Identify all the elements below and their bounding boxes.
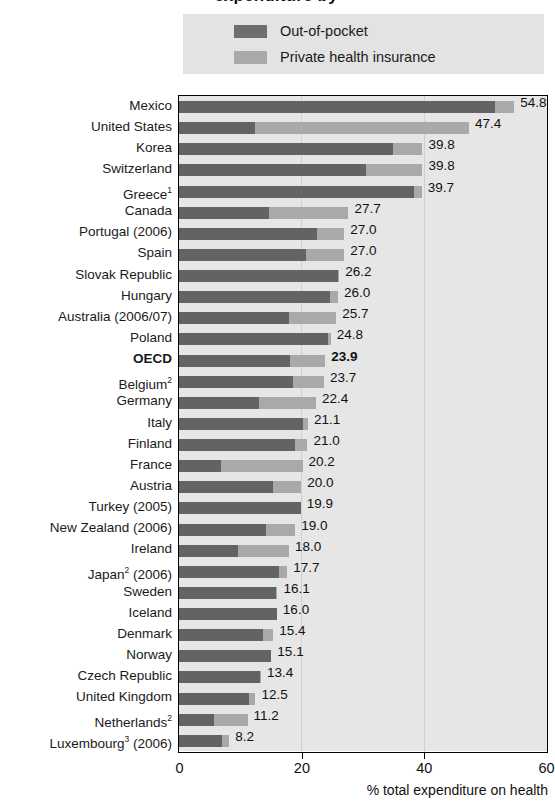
bar-row[interactable]: 19.0 (179, 519, 547, 540)
bar-row[interactable]: 13.4 (179, 666, 547, 687)
bar-segment-out-of-pocket (179, 481, 273, 493)
stacked-bar[interactable] (179, 671, 261, 683)
bar-row[interactable]: 11.2 (179, 709, 547, 730)
bar-value-label: 8.2 (235, 729, 254, 744)
bar-row[interactable]: 16.1 (179, 582, 547, 603)
bar-segment-private-health-insurance (221, 460, 303, 472)
bar-segment-out-of-pocket (179, 502, 301, 514)
bar-value-label: 27.0 (350, 222, 376, 237)
bar-value-label: 13.4 (267, 665, 293, 680)
bar-segment-private-health-insurance (263, 629, 273, 641)
stacked-bar[interactable] (179, 460, 303, 472)
bar-segment-private-health-insurance (366, 164, 423, 176)
bar-row[interactable]: 19.9 (179, 497, 547, 518)
bar-row[interactable]: 39.7 (179, 181, 547, 202)
bar-row[interactable]: 20.0 (179, 476, 547, 497)
bar-segment-private-health-insurance (255, 122, 468, 134)
bar-row[interactable]: 21.0 (179, 434, 547, 455)
stacked-bar[interactable] (179, 566, 287, 578)
stacked-bar[interactable] (179, 714, 248, 726)
bar-row[interactable]: 39.8 (179, 138, 547, 159)
bar-segment-private-health-insurance (249, 693, 256, 705)
bar-segment-private-health-insurance (303, 418, 308, 430)
bar-row[interactable]: 26.2 (179, 265, 547, 286)
bar-row[interactable]: 27.0 (179, 223, 547, 244)
stacked-bar[interactable] (179, 249, 344, 261)
category-label: Australia (2006/07) (0, 311, 172, 323)
stacked-bar[interactable] (179, 481, 301, 493)
stacked-bar[interactable] (179, 502, 301, 514)
category-label: Sweden (0, 586, 172, 598)
bar-row[interactable]: 12.5 (179, 688, 547, 709)
stacked-bar[interactable] (179, 143, 422, 155)
bar-row[interactable]: 27.0 (179, 244, 547, 265)
bar-row[interactable]: 25.7 (179, 307, 547, 328)
legend-swatch-icon (234, 51, 267, 64)
x-axis-title: % total expenditure on health (367, 782, 548, 798)
stacked-bar[interactable] (179, 439, 307, 451)
bar-row[interactable]: 21.1 (179, 413, 547, 434)
bar-row[interactable]: 27.7 (179, 202, 547, 223)
bar-value-label: 27.0 (350, 243, 376, 258)
stacked-bar[interactable] (179, 291, 338, 303)
bar-row[interactable]: 17.7 (179, 561, 547, 582)
bar-value-label: 11.2 (254, 708, 279, 723)
stacked-bar[interactable] (179, 122, 469, 134)
stacked-bar[interactable] (179, 333, 331, 345)
bar-value-label: 12.5 (261, 687, 287, 702)
bar-segment-private-health-insurance (293, 376, 324, 388)
category-label: Iceland (0, 607, 172, 619)
bar-row[interactable]: 47.4 (179, 117, 547, 138)
stacked-bar[interactable] (179, 397, 316, 409)
category-label: Hungary (0, 290, 172, 302)
stacked-bar[interactable] (179, 207, 348, 219)
bar-segment-out-of-pocket (179, 566, 279, 578)
bar-row[interactable]: 23.7 (179, 371, 547, 392)
legend-label: Out-of-pocket (280, 23, 368, 39)
bar-value-label: 47.4 (475, 116, 501, 131)
stacked-bar[interactable] (179, 312, 336, 324)
bar-row[interactable]: 18.0 (179, 540, 547, 561)
stacked-bar[interactable] (179, 650, 271, 662)
bar-row[interactable]: 54.8 (179, 96, 547, 117)
bar-segment-private-health-insurance (317, 228, 345, 240)
category-label: Poland (0, 332, 172, 344)
bar-row[interactable]: 16.0 (179, 603, 547, 624)
stacked-bar[interactable] (179, 101, 514, 113)
bar-segment-out-of-pocket (179, 186, 414, 198)
stacked-bar[interactable] (179, 418, 308, 430)
bar-row[interactable]: 15.4 (179, 624, 547, 645)
stacked-bar[interactable] (179, 376, 324, 388)
stacked-bar[interactable] (179, 524, 295, 536)
bar-row[interactable]: 26.0 (179, 286, 547, 307)
stacked-bar[interactable] (179, 587, 277, 599)
category-label: Norway (0, 649, 172, 661)
bar-row[interactable]: 39.8 (179, 159, 547, 180)
bar-row[interactable]: 20.2 (179, 455, 547, 476)
bar-value-label: 16.1 (283, 581, 309, 596)
bar-row[interactable]: 22.4 (179, 392, 547, 413)
bar-row[interactable]: 8.2 (179, 730, 547, 751)
stacked-bar[interactable] (179, 735, 229, 747)
stacked-bar[interactable] (179, 164, 422, 176)
category-label: Netherlands2 (0, 712, 172, 729)
stacked-bar[interactable] (179, 629, 273, 641)
bar-row[interactable]: 23.9 (179, 350, 547, 371)
stacked-bar[interactable] (179, 228, 344, 240)
stacked-bar[interactable] (179, 545, 289, 557)
category-label: Switzerland (0, 163, 172, 175)
bar-row[interactable]: 15.1 (179, 645, 547, 666)
category-label: Czech Republic (0, 670, 172, 682)
stacked-bar[interactable] (179, 186, 422, 198)
bar-segment-out-of-pocket (179, 333, 328, 345)
stacked-bar[interactable] (179, 355, 325, 367)
stacked-bar[interactable] (179, 608, 277, 620)
bar-segment-out-of-pocket (179, 608, 277, 620)
bar-row[interactable]: 24.8 (179, 328, 547, 349)
stacked-bar[interactable] (179, 270, 339, 282)
stacked-bar[interactable] (179, 693, 255, 705)
bar-segment-out-of-pocket (179, 207, 269, 219)
bar-segment-out-of-pocket (179, 249, 306, 261)
category-label: Korea (0, 142, 172, 154)
